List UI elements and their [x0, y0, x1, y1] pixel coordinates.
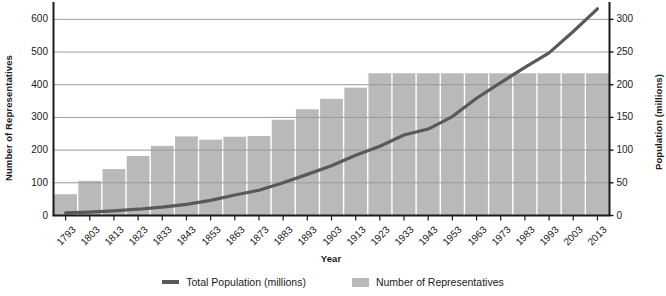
- bar: [199, 140, 223, 216]
- chart-legend: Total Population (millions)Number of Rep…: [0, 272, 666, 292]
- left-tick-label: 200: [10, 145, 48, 155]
- bar: [392, 73, 416, 215]
- bar: [537, 73, 561, 215]
- left-tick-label: 500: [10, 47, 48, 57]
- right-tick-label: 200: [617, 80, 651, 90]
- right-tick-label: 300: [617, 14, 651, 24]
- bar: [247, 136, 271, 215]
- legend-item[interactable]: Total Population (millions): [162, 276, 306, 288]
- bar: [440, 73, 464, 215]
- bar: [513, 73, 537, 215]
- bar: [489, 73, 513, 215]
- legend-box-swatch-icon: [352, 278, 369, 287]
- bar: [319, 99, 343, 216]
- right-tick-label: 0: [617, 211, 651, 221]
- bar: [223, 137, 247, 216]
- left-tick-label: 300: [10, 112, 48, 122]
- bar: [271, 120, 295, 216]
- bar-series: [54, 73, 610, 215]
- legend-line-swatch-icon: [162, 280, 179, 284]
- right-tick-label: 250: [617, 47, 651, 57]
- bar: [368, 73, 392, 215]
- left-tick-label: 600: [10, 14, 48, 24]
- right-tick-label: 50: [617, 178, 651, 188]
- left-tick-label: 400: [10, 80, 48, 90]
- bar: [561, 73, 585, 215]
- bar: [585, 73, 609, 215]
- bar: [295, 109, 319, 215]
- right-tick-label: 150: [617, 112, 651, 122]
- legend-label: Total Population (millions): [186, 276, 306, 288]
- right-tick-label: 100: [617, 145, 651, 155]
- bar: [126, 156, 150, 216]
- left-tick-label: 100: [10, 178, 48, 188]
- left-tick-label: 0: [10, 211, 48, 221]
- population-representatives-chart: Number of Representatives Population (mi…: [0, 0, 666, 296]
- bar: [102, 169, 126, 215]
- legend-item[interactable]: Number of Representatives: [352, 276, 504, 288]
- bar: [416, 73, 440, 215]
- legend-label: Number of Representatives: [376, 276, 504, 288]
